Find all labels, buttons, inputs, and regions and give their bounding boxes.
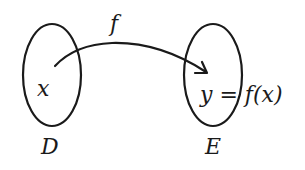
domain-element-label: x [37, 78, 49, 100]
codomain-set-label: E [205, 136, 221, 158]
domain-set-ellipse [23, 24, 81, 126]
mapping-label: f [110, 13, 118, 35]
domain-set-label: D [41, 136, 59, 158]
codomain-set-ellipse [184, 24, 242, 126]
function-mapping-diagram: f x y = f(x) D E [0, 0, 305, 170]
codomain-element-label: y = f(x) [200, 84, 283, 106]
